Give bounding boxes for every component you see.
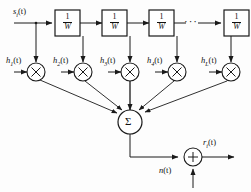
delay-box-label-2: 1 W: [102, 13, 127, 31]
ellipsis-label: ···: [184, 15, 198, 27]
delay-box-label-3: 1 W: [149, 13, 174, 31]
delay-box-label-1: 1 W: [55, 13, 80, 31]
summer-output-path: [130, 134, 178, 157]
tap-weight-label-2: h2(t): [53, 56, 68, 67]
input-signal-label: si(t): [13, 7, 26, 18]
tap-weight-label-1: h1(t): [6, 56, 21, 67]
tap-weight-label-4: h4(t): [147, 56, 162, 67]
noise-label: n(t): [159, 166, 171, 175]
summer-symbol: Σ: [125, 115, 131, 127]
block-diagram-figure: si(t) 1 W 1 W 1 W 1 W ··· h1(t) h2(: [0, 0, 251, 192]
tap-weight-label-5: hL(t): [201, 56, 217, 67]
summation-converging-lines: [40, 80, 227, 113]
delay-box-label-4: 1 W: [224, 13, 249, 31]
tap-weight-label-3: h3(t): [100, 56, 115, 67]
output-signal-label: ri(t): [203, 138, 216, 149]
